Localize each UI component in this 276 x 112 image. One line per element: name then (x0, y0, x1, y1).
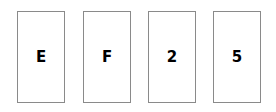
card-face: 5 (232, 50, 242, 65)
card-3[interactable]: 2 (148, 11, 196, 103)
card-face: F (102, 50, 112, 65)
card-face: 2 (167, 50, 177, 65)
card-4[interactable]: 5 (213, 11, 261, 103)
card-2[interactable]: F (83, 11, 131, 103)
card-face: E (36, 50, 46, 65)
card-1[interactable]: E (17, 11, 65, 103)
